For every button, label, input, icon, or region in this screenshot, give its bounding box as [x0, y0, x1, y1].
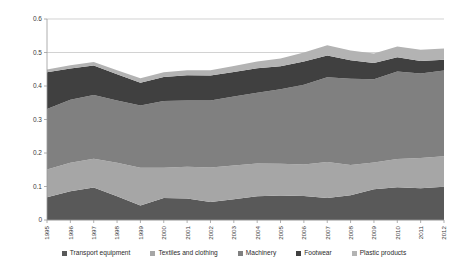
- legend-swatch-icon: [62, 251, 67, 256]
- legend-item-3[interactable]: Footwear: [296, 250, 332, 257]
- legend-swatch-icon: [352, 251, 357, 256]
- x-tick-label: 2000: [160, 225, 167, 239]
- chart-legend: Transport equipmentTextiles and clothing…: [0, 250, 468, 257]
- legend-item-4[interactable]: Plastic products: [352, 250, 407, 257]
- x-tick-label: 2004: [254, 225, 261, 239]
- chart-plot-area: 00.10.20.30.40.50.6199519961997199819992…: [0, 0, 468, 250]
- legend-item-0[interactable]: Transport equipment: [62, 250, 131, 257]
- x-tick-label: 2012: [440, 225, 447, 239]
- legend-item-label: Footwear: [304, 250, 332, 257]
- x-tick-label: 1995: [43, 225, 50, 239]
- x-tick-label: 2001: [184, 225, 191, 239]
- y-tick-label: 0.4: [33, 82, 42, 89]
- y-tick-label: 0.2: [33, 149, 42, 156]
- legend-item-1[interactable]: Textiles and clothing: [150, 250, 217, 257]
- y-tick-label: 0.1: [33, 183, 42, 190]
- legend-swatch-icon: [150, 251, 155, 256]
- x-tick-label: 2003: [230, 225, 237, 239]
- stacked-area-chart: 00.10.20.30.40.50.6199519961997199819992…: [0, 0, 468, 274]
- legend-swatch-icon: [296, 251, 301, 256]
- x-tick-label: 1999: [137, 225, 144, 239]
- legend-item-label: Plastic products: [360, 250, 407, 257]
- legend-item-2[interactable]: Machinery: [238, 250, 276, 257]
- x-tick-label: 2009: [370, 225, 377, 239]
- x-tick-label: 1998: [113, 225, 120, 239]
- legend-swatch-icon: [238, 251, 243, 256]
- x-tick-label: 2008: [347, 225, 354, 239]
- y-tick-label: 0: [38, 216, 42, 223]
- x-tick-label: 2002: [207, 225, 214, 239]
- y-tick-label: 0.3: [33, 116, 42, 123]
- x-tick-label: 1996: [67, 225, 74, 239]
- x-tick-label: 2006: [300, 225, 307, 239]
- y-tick-label: 0.6: [33, 15, 42, 22]
- x-tick-label: 2011: [417, 225, 424, 239]
- x-tick-label: 2010: [394, 225, 401, 239]
- x-tick-label: 2007: [324, 225, 331, 239]
- x-tick-label: 2005: [277, 225, 284, 239]
- legend-item-label: Transport equipment: [70, 250, 131, 257]
- legend-item-label: Textiles and clothing: [158, 250, 217, 257]
- y-tick-label: 0.5: [33, 49, 42, 56]
- legend-item-label: Machinery: [246, 250, 276, 257]
- x-tick-label: 1997: [90, 225, 97, 239]
